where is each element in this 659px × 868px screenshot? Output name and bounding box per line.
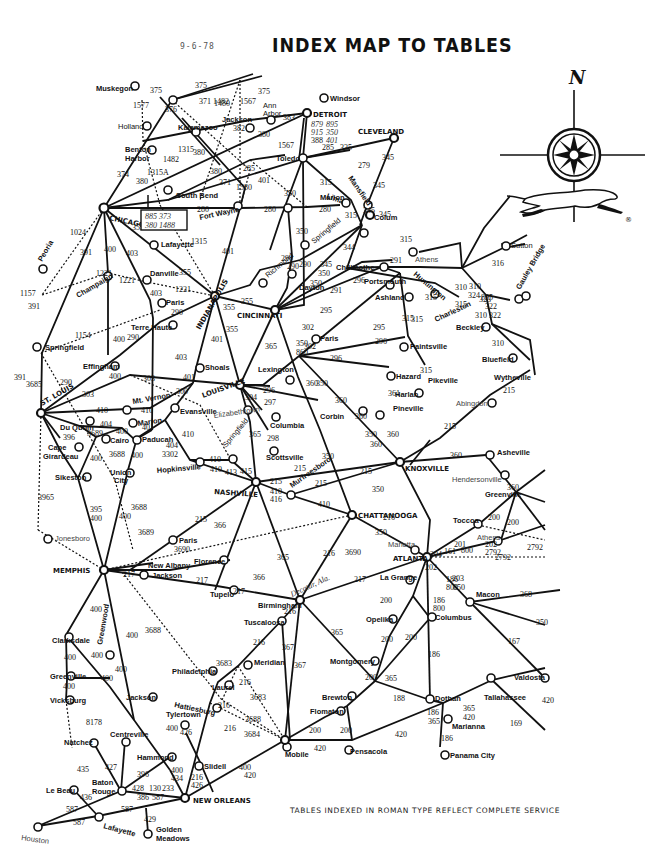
svg-text:Paris: Paris: [166, 298, 184, 307]
svg-text:200: 200: [507, 518, 519, 527]
svg-text:400: 400: [64, 653, 76, 662]
svg-text:290: 290: [287, 262, 299, 271]
svg-text:375: 375: [258, 87, 270, 96]
svg-text:401: 401: [142, 423, 154, 432]
svg-text:Slidell: Slidell: [204, 762, 226, 771]
svg-text:416: 416: [270, 495, 282, 504]
svg-text:8178: 8178: [86, 718, 102, 727]
svg-text:395: 395: [90, 505, 102, 514]
svg-text:Le Beau: Le Beau: [46, 786, 76, 795]
svg-text:217: 217: [233, 587, 245, 596]
svg-text:400: 400: [91, 651, 103, 660]
svg-text:315: 315: [455, 300, 467, 309]
svg-text:3689: 3689: [138, 528, 154, 537]
svg-text:366: 366: [253, 573, 265, 582]
svg-text:3685: 3685: [26, 380, 42, 389]
svg-text:216: 216: [218, 701, 230, 710]
svg-text:Hendersonville: Hendersonville: [452, 475, 502, 484]
svg-text:345: 345: [373, 181, 385, 190]
svg-text:Pikeville: Pikeville: [428, 376, 458, 385]
svg-text:Sutton: Sutton: [511, 241, 533, 250]
svg-text:350: 350: [372, 485, 384, 494]
svg-text:1567: 1567: [278, 141, 294, 150]
svg-text:200: 200: [488, 513, 500, 522]
svg-text:169: 169: [510, 719, 522, 728]
svg-text:400: 400: [131, 451, 143, 460]
svg-text:202: 202: [425, 563, 437, 572]
svg-text:350: 350: [316, 379, 328, 388]
svg-text:401: 401: [222, 247, 234, 256]
svg-text:355: 355: [179, 268, 191, 277]
svg-text:215: 215: [503, 386, 515, 395]
svg-text:215: 215: [444, 422, 456, 431]
svg-text:Jackson: Jackson: [152, 571, 182, 580]
svg-text:186: 186: [441, 734, 453, 743]
svg-text:400: 400: [113, 335, 125, 344]
svg-text:391: 391: [14, 373, 26, 382]
svg-text:367: 367: [282, 643, 294, 652]
svg-text:400: 400: [63, 682, 75, 691]
svg-text:Marion: Marion: [320, 193, 345, 202]
svg-text:345: 345: [379, 210, 391, 219]
svg-text:335: 335: [340, 143, 352, 152]
svg-text:420: 420: [314, 744, 326, 753]
svg-text:Columbia: Columbia: [270, 421, 305, 430]
svg-text:South Bend: South Bend: [176, 191, 218, 200]
svg-text:360: 360: [370, 440, 382, 449]
svg-text:Terre Haute: Terre Haute: [131, 323, 172, 332]
svg-text:315: 315: [400, 235, 412, 244]
svg-text:NEW ORLEANS: NEW ORLEANS: [193, 797, 251, 805]
svg-text:216: 216: [239, 678, 251, 687]
svg-text:Sikeston: Sikeston: [55, 473, 87, 482]
svg-text:380: 380: [193, 148, 205, 157]
svg-text:167: 167: [508, 637, 520, 646]
svg-text:Macon: Macon: [476, 590, 500, 599]
svg-text:365: 365: [331, 628, 343, 637]
svg-text:428: 428: [132, 784, 144, 793]
svg-text:396: 396: [63, 433, 75, 442]
svg-text:Montgomery: Montgomery: [330, 657, 376, 666]
svg-text:280: 280: [264, 205, 276, 214]
svg-text:Bluefield: Bluefield: [482, 355, 514, 364]
svg-text:203: 203: [452, 574, 464, 583]
svg-text:800: 800: [461, 546, 473, 555]
svg-text:410: 410: [209, 455, 221, 464]
svg-text:400: 400: [166, 724, 178, 733]
svg-text:186: 186: [427, 708, 439, 717]
svg-text:3688: 3688: [245, 715, 261, 724]
svg-text:587: 587: [152, 793, 164, 802]
svg-text:Jonesboro: Jonesboro: [55, 534, 90, 543]
svg-text:1577: 1577: [133, 101, 149, 110]
svg-text:New Albany: New Albany: [148, 561, 191, 570]
svg-text:216: 216: [284, 607, 296, 616]
svg-text:Panama City: Panama City: [450, 751, 496, 760]
svg-text:Wytheville: Wytheville: [494, 373, 531, 382]
svg-text:350: 350: [322, 452, 334, 461]
svg-text:426: 426: [180, 728, 192, 737]
svg-text:345: 345: [382, 153, 394, 162]
svg-text:374: 374: [117, 170, 129, 179]
svg-text:361: 361: [388, 389, 400, 398]
svg-text:850: 850: [453, 583, 465, 592]
svg-text:420: 420: [244, 771, 256, 780]
svg-text:413: 413: [225, 468, 237, 477]
svg-text:290: 290: [281, 254, 293, 263]
detroit-table-box: 879895 915350 388401: [311, 120, 338, 145]
svg-text:3689: 3689: [87, 429, 103, 438]
svg-text:291: 291: [390, 256, 402, 265]
svg-text:161: 161: [444, 547, 456, 556]
svg-text:Springfield: Springfield: [45, 343, 85, 352]
svg-text:Cairo: Cairo: [110, 436, 130, 445]
svg-text:304: 304: [245, 393, 257, 402]
svg-text:400: 400: [109, 372, 121, 381]
north-label: N: [568, 67, 587, 88]
svg-text:Baton: Baton: [92, 778, 114, 787]
svg-text:3683: 3683: [250, 693, 266, 702]
svg-text:3688: 3688: [109, 450, 125, 459]
svg-text:Valdosta: Valdosta: [514, 673, 546, 682]
svg-text:Meadows: Meadows: [156, 834, 190, 843]
svg-text:Ashland: Ashland: [375, 293, 405, 302]
svg-text:Houston: Houston: [21, 833, 50, 846]
svg-text:302: 302: [304, 342, 316, 351]
svg-text:Brewton: Brewton: [322, 693, 352, 702]
